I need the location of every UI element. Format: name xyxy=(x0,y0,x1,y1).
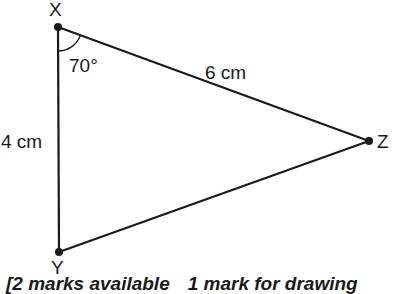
side-xz xyxy=(58,27,369,141)
angle-label: 70° xyxy=(69,56,98,75)
side-label-xy: 4 cm xyxy=(1,132,42,151)
side-xy xyxy=(58,27,59,252)
vertex-y-dot xyxy=(55,248,63,256)
vertex-x-dot xyxy=(54,23,62,31)
angle-arc xyxy=(58,35,80,51)
drawing-mark-text: 1 mark for drawing xyxy=(188,273,358,294)
vertex-z-dot xyxy=(365,137,373,145)
side-yz xyxy=(59,141,369,252)
marks-available-text: [2 marks available xyxy=(6,273,170,294)
vertex-label-z: Z xyxy=(377,132,389,151)
vertex-label-x: X xyxy=(49,0,62,19)
marks-footer: [2 marks available1 mark for drawing xyxy=(6,274,376,293)
side-label-xz: 6 cm xyxy=(205,63,246,82)
